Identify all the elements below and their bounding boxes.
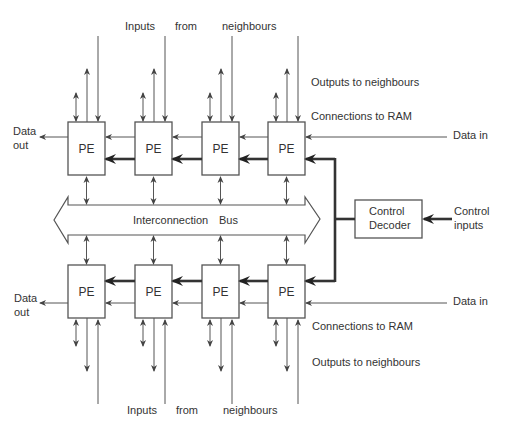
top-from-label: from (175, 20, 197, 32)
control-decoder-label-2: Decoder (369, 219, 411, 231)
bottom-inputs-label: Inputs (127, 404, 157, 416)
simd-array-diagram: Interconnection Bus PEPEPEPEPEPEPEPE Con… (0, 0, 508, 444)
top-data-out-label-1: Data (13, 125, 37, 137)
bottom-pe-3-label: PE (212, 285, 228, 299)
top-data-in-label: Data in (453, 129, 488, 141)
bottom-outputs-label: Outputs to neighbours (312, 356, 421, 368)
top-inputs-label: Inputs (125, 20, 155, 32)
bus-label-bus: Bus (219, 214, 238, 226)
bottom-pe-4-label: PE (278, 285, 294, 299)
control-inputs-label-1: Control (454, 205, 489, 217)
bus-label-interconnection: Interconnection (133, 214, 208, 226)
bottom-data-in-label: Data in (453, 295, 488, 307)
top-neighbours-label: neighbours (222, 20, 277, 32)
top-data-out-label-2: out (13, 139, 28, 151)
bottom-from-label: from (176, 404, 198, 416)
top-ram-label: Connections to RAM (311, 110, 412, 122)
bottom-pe-1-label: PE (78, 285, 94, 299)
top-outputs-label: Outputs to neighbours (311, 76, 420, 88)
bottom-data-out-label-1: Data (14, 292, 38, 304)
bottom-data-out-label-2: out (14, 306, 29, 318)
top-pe-3-label: PE (212, 142, 228, 156)
bottom-ram-label: Connections to RAM (312, 320, 413, 332)
control-inputs-label-2: inputs (454, 219, 484, 231)
top-pe-4-label: PE (278, 142, 294, 156)
top-pe-1-label: PE (78, 142, 94, 156)
top-pe-2-label: PE (145, 142, 161, 156)
bottom-neighbours-label: neighbours (223, 404, 278, 416)
control-decoder-label-1: Control (369, 205, 404, 217)
bottom-pe-2-label: PE (145, 285, 161, 299)
